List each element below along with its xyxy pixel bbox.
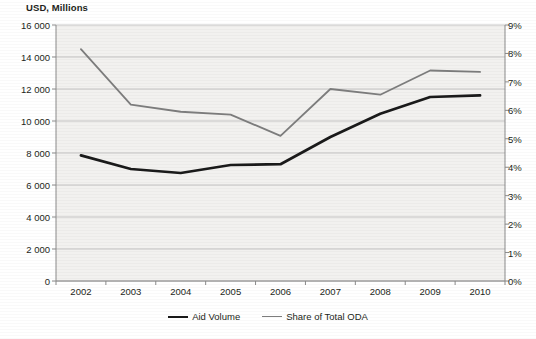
x-axis-tick-label: 2005 (220, 286, 241, 297)
chart-container: USD, Millions 02 0004 0006 0008 00010 00… (0, 0, 536, 339)
y-axis-left-tick-label: 0 (4, 276, 50, 287)
x-axis-tick-label: 2009 (420, 286, 441, 297)
x-axis-tick-label: 2007 (320, 286, 341, 297)
y-axis-right-tick-label: 4% (508, 162, 534, 173)
legend-label-aid-volume: Aid Volume (192, 311, 240, 322)
y-axis-left-tick-label: 2 000 (4, 244, 50, 255)
y-axis-right-tick-label: 2% (508, 219, 534, 230)
chart-legend: Aid Volume Share of Total ODA (0, 311, 536, 322)
legend-swatch-icon-share-of-total-oda (262, 316, 282, 317)
y-axis-left-tick-label: 10 000 (4, 116, 50, 127)
y-axis-right-tick-label: 6% (508, 105, 534, 116)
y-axis-right-tick-label: 8% (508, 48, 534, 59)
y-axis-right-tick-label: 0% (508, 276, 534, 287)
y-axis-left-tick-label: 8 000 (4, 148, 50, 159)
y-axis-left-tick-label: 16 000 (4, 20, 50, 31)
x-axis-tick-label: 2008 (370, 286, 391, 297)
y-axis-right-tick-label: 9% (508, 20, 534, 31)
y-axis-right-tick-label: 3% (508, 190, 534, 201)
y-axis-left-tick-label: 12 000 (4, 84, 50, 95)
x-axis-tick-label: 2003 (120, 286, 141, 297)
x-axis-tick-label: 2002 (70, 286, 91, 297)
x-axis-tick-label: 2010 (469, 286, 490, 297)
legend-item-share-of-total-oda[interactable]: Share of Total ODA (262, 311, 368, 322)
legend-item-aid-volume[interactable]: Aid Volume (168, 311, 240, 322)
y-axis-left-tick-label: 6 000 (4, 180, 50, 191)
y-axis-left-tick-label: 4 000 (4, 212, 50, 223)
x-axis-tick-label: 2006 (270, 286, 291, 297)
legend-swatch-icon-aid-volume (168, 316, 188, 318)
legend-label-share-of-total-oda: Share of Total ODA (286, 311, 368, 322)
y-axis-left-tick-label: 14 000 (4, 52, 50, 63)
y-axis-right-tick-label: 1% (508, 247, 534, 258)
x-axis-tick-label: 2004 (170, 286, 191, 297)
y-axis-right-tick-label: 7% (508, 76, 534, 87)
y-axis-right-tick-label: 5% (508, 133, 534, 144)
